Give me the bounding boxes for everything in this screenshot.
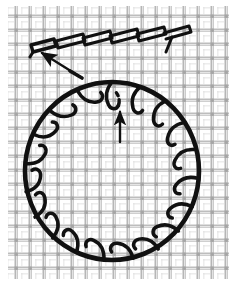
stitch-diagram xyxy=(0,0,237,285)
figure-container xyxy=(0,0,237,285)
